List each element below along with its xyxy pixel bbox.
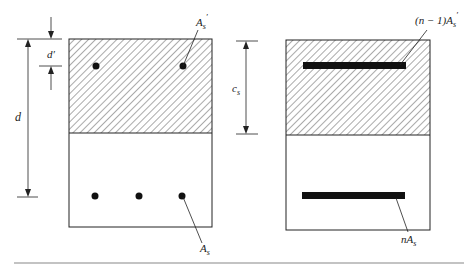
nas-leader — [396, 198, 408, 232]
left-beam-section: As′ As — [69, 12, 212, 257]
cs-label: cs — [232, 82, 240, 97]
tension-bar — [179, 193, 186, 200]
nas-label: nAs — [401, 233, 416, 248]
arrow-down-icon — [48, 31, 54, 39]
transformed-tension-steel — [302, 192, 405, 199]
arrow-up-icon — [243, 41, 249, 49]
compression-bar — [93, 63, 100, 70]
as-leader — [183, 197, 202, 243]
transformed-compression-steel — [303, 62, 406, 69]
compression-zone-hatch — [69, 39, 212, 133]
d-label: d — [15, 110, 22, 124]
as-label: As — [199, 242, 210, 257]
tension-bar — [92, 193, 99, 200]
right-transformed-section: (n − 1)As′ nAs — [286, 10, 459, 248]
tension-bar — [136, 193, 143, 200]
arrow-down-icon — [25, 189, 31, 197]
transformed-section-diagram: As′ As d d′ (n − 1)A — [0, 0, 476, 268]
n1-as-prime-label: (n − 1)As′ — [415, 10, 459, 29]
arrow-down-icon — [243, 126, 249, 134]
left-dimensions: d d′ — [15, 17, 62, 197]
as-prime-label: As′ — [195, 12, 209, 31]
dprime-label: d′ — [47, 48, 56, 60]
cs-dimension: cs — [232, 41, 258, 134]
arrow-up-icon — [48, 66, 54, 74]
arrow-up-icon — [25, 39, 31, 47]
